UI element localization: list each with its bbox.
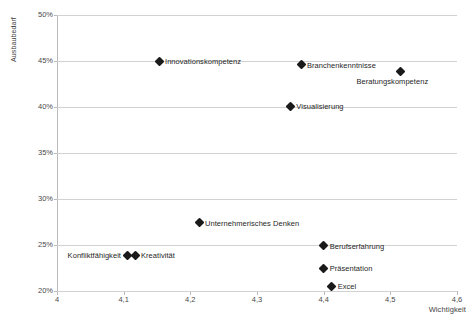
gridline-horizontal — [57, 15, 457, 16]
x-axis-tick-label: 4,2 — [175, 295, 205, 304]
data-point-label: Branchenkenntnisse — [307, 60, 376, 69]
gridline-horizontal — [57, 199, 457, 200]
y-axis-tick-mark — [54, 245, 57, 246]
data-point-marker[interactable] — [319, 241, 329, 251]
data-point-label: Konfliktfähigkeit — [68, 251, 121, 260]
data-point-marker[interactable] — [285, 101, 295, 111]
gridline-horizontal — [57, 245, 457, 246]
data-point-label: Präsentation — [330, 264, 373, 273]
gridline-horizontal — [57, 153, 457, 154]
x-axis-tick-label: 4,3 — [242, 295, 272, 304]
data-point-label: Kreativität — [141, 251, 175, 260]
data-point-marker[interactable] — [194, 218, 204, 228]
y-axis-tick-mark — [54, 199, 57, 200]
x-axis-tick-label: 4,5 — [375, 295, 405, 304]
data-point-marker[interactable] — [327, 281, 337, 291]
data-point-marker[interactable] — [154, 56, 164, 66]
y-axis-tick-mark — [54, 61, 57, 62]
data-point-marker[interactable] — [130, 250, 140, 260]
y-axis-tick-label: 45% — [9, 56, 53, 65]
gridline-horizontal — [57, 107, 457, 108]
y-axis-tick-mark — [54, 153, 57, 154]
data-point-marker[interactable] — [395, 66, 405, 76]
y-axis-tick-label: 50% — [9, 10, 53, 19]
y-axis-tick-label: 25% — [9, 240, 53, 249]
data-point-label: Unternehmerisches Denken — [205, 218, 299, 227]
x-axis-tick-label: 4,4 — [309, 295, 339, 304]
y-axis-tick-label: 20% — [9, 286, 53, 295]
y-axis-tick-label: 30% — [9, 194, 53, 203]
x-axis-tick-label: 4 — [42, 295, 72, 304]
gridline-horizontal — [57, 61, 457, 62]
y-axis-tick-label: 40% — [9, 102, 53, 111]
scatter-chart: Ausbaubedarf Wichtigkeit Innovationskomp… — [0, 0, 472, 328]
y-axis-tick-mark — [54, 15, 57, 16]
data-point-label: Excel — [338, 282, 357, 291]
data-point-marker[interactable] — [319, 263, 329, 273]
data-point-label: Innovationskompetenz — [165, 57, 241, 66]
y-axis-tick-label: 35% — [9, 148, 53, 157]
data-point-label: Berufserfahrung — [330, 241, 385, 250]
x-axis-title: Wichtigkeit — [429, 305, 466, 314]
x-axis-tick-label: 4,6 — [442, 295, 472, 304]
data-point-label: Beratungskompetenz — [356, 77, 428, 86]
data-point-label: Visualisierung — [296, 102, 343, 111]
y-axis-tick-mark — [54, 107, 57, 108]
x-axis-tick-label: 4,1 — [109, 295, 139, 304]
plot-area: InnovationskompetenzBranchenkenntnisseBe… — [57, 15, 457, 291]
